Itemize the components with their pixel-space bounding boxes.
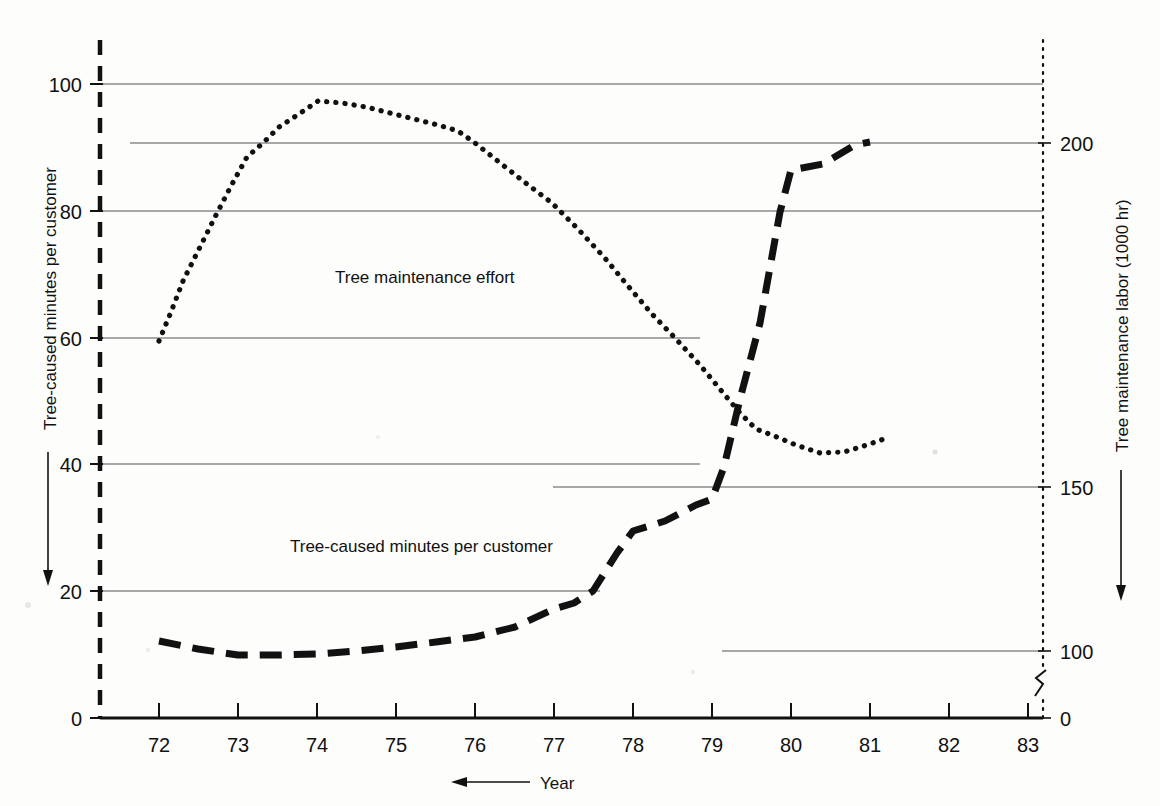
- left-tick-label-20: 20: [60, 581, 82, 603]
- right-tick-label-0: 0: [1060, 708, 1071, 730]
- x-tick-label-79: 79: [701, 734, 723, 756]
- x-axis-title: Year: [540, 774, 575, 793]
- right-axis-title: Tree maintenance labor (1000 hr): [1113, 199, 1132, 452]
- left-tick-label-0: 0: [71, 708, 82, 730]
- x-tick-label-77: 77: [543, 734, 565, 756]
- x-tick-label-78: 78: [622, 734, 644, 756]
- x-tick-label-76: 76: [464, 734, 486, 756]
- series-tree-caused-minutes: [159, 142, 870, 655]
- x-tick-label-82: 82: [938, 734, 960, 756]
- right-axis-title-group: Tree maintenance labor (1000 hr): [1113, 199, 1132, 601]
- x-tick-label-75: 75: [385, 734, 407, 756]
- right-tick-label-100: 100: [1060, 641, 1093, 663]
- chart-figure: 100 80 60 40 20 0 Tree-caused minutes pe…: [0, 0, 1160, 806]
- x-tick-label-81: 81: [859, 734, 881, 756]
- chart-canvas: 100 80 60 40 20 0 Tree-caused minutes pe…: [0, 0, 1160, 806]
- right-tick-label-150: 150: [1060, 477, 1093, 499]
- x-tick-label-74: 74: [306, 734, 328, 756]
- x-tick-label-73: 73: [227, 734, 249, 756]
- x-tick-label-83: 83: [1017, 734, 1039, 756]
- x-axis-ticks: [159, 703, 1028, 718]
- x-axis-title-group: Year: [451, 774, 575, 793]
- left-axis-title-group: Tree-caused minutes per customer: [41, 167, 60, 586]
- series-tree-maintenance-effort: [159, 101, 884, 453]
- left-tick-label-80: 80: [60, 201, 82, 223]
- left-tick-label-100: 100: [49, 74, 82, 96]
- x-tick-label-80: 80: [780, 734, 802, 756]
- annotation-tree-caused-minutes: Tree-caused minutes per customer: [290, 537, 553, 556]
- axis-break-icon: [1035, 670, 1046, 696]
- x-tick-label-72: 72: [148, 734, 170, 756]
- left-axis-title: Tree-caused minutes per customer: [41, 167, 60, 430]
- right-axis-ticks: [1038, 143, 1051, 718]
- left-tick-label-40: 40: [60, 454, 82, 476]
- left-tick-label-60: 60: [60, 328, 82, 350]
- right-tick-label-200: 200: [1060, 133, 1093, 155]
- annotation-tree-maintenance-effort: Tree maintenance effort: [335, 268, 515, 287]
